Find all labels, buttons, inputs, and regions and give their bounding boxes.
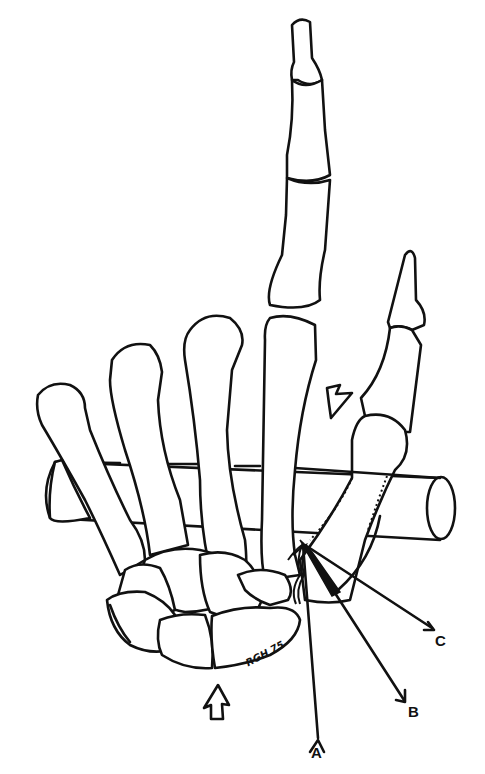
vector-label-c: C	[435, 632, 446, 649]
vector-label-a: A	[311, 744, 322, 761]
index-metacarpal	[184, 316, 246, 578]
hand-skeleton-diagram	[0, 0, 485, 774]
thumb-bones	[300, 251, 425, 602]
top-arrow-icon	[327, 385, 352, 418]
force-vectors	[300, 540, 434, 752]
vector-label-b: B	[408, 703, 419, 720]
bottom-arrow-icon	[204, 685, 229, 719]
